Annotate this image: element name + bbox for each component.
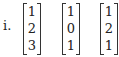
column-vector-1: 1 2 3: [23, 3, 41, 55]
vector-entry: 3: [28, 38, 36, 54]
item-label: i.: [3, 18, 11, 33]
vector-entry: 1: [105, 4, 113, 20]
column-vector-2: 1 0 1: [62, 3, 80, 55]
vector-entry: 1: [67, 38, 75, 54]
vector-entry: 1: [28, 4, 36, 20]
vector-entry: 1: [105, 38, 113, 54]
vector-entry: 0: [67, 21, 75, 37]
vector-entry: 2: [28, 21, 36, 37]
column-vector-3: 1 2 1: [100, 3, 118, 55]
vector-entry: 2: [105, 21, 113, 37]
vector-entry: 1: [67, 4, 75, 20]
